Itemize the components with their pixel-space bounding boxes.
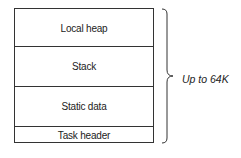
segment-stack: Stack xyxy=(15,46,153,86)
memory-segment-stack: Local heap Stack Static data Task header xyxy=(14,8,154,143)
size-label: Up to 64K xyxy=(182,73,229,85)
segment-label: Stack xyxy=(72,61,96,72)
segment-task-header: Task header xyxy=(15,126,153,143)
curly-brace-icon xyxy=(160,8,176,144)
segment-label: Task header xyxy=(58,130,110,141)
segment-label: Static data xyxy=(61,101,106,112)
segment-static-data: Static data xyxy=(15,86,153,126)
segment-label: Local heap xyxy=(61,23,108,34)
segment-local-heap: Local heap xyxy=(15,9,153,47)
